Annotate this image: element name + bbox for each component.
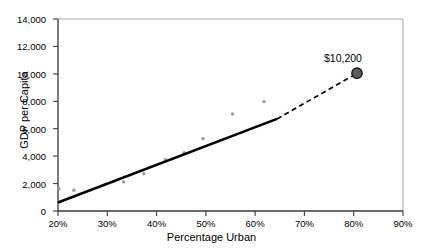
scatter-point (57, 187, 60, 190)
x-tick-label: 40% (137, 218, 177, 229)
y-axis-ticks (53, 19, 58, 211)
y-tick-label: 14,000 (2, 14, 46, 25)
x-tick-label: 60% (235, 218, 275, 229)
x-tick-label: 20% (38, 218, 78, 229)
trend-line-dashed (277, 74, 357, 119)
scatter-point (122, 180, 125, 183)
scatter-points (57, 100, 265, 192)
y-axis-title: GDP per Capita (18, 40, 30, 180)
x-tick-label: 90% (383, 218, 423, 229)
scatter-point (262, 100, 265, 103)
x-tick-label: 70% (284, 218, 324, 229)
x-tick-label: 50% (186, 218, 226, 229)
scatter-point (231, 112, 234, 115)
trend-line-solid (58, 119, 277, 203)
x-axis-ticks (58, 211, 403, 216)
x-tick-label: 30% (87, 218, 127, 229)
projected-value-label: $10,200 (324, 52, 362, 64)
y-tick-label: 2,000 (2, 179, 46, 190)
y-tick-label: 0 (2, 206, 46, 217)
scatter-point (201, 137, 204, 140)
scatter-point (72, 189, 75, 192)
x-axis-title: Percentage Urban (0, 231, 423, 243)
plot-canvas (0, 0, 423, 252)
x-tick-label: 80% (334, 218, 374, 229)
scatter-point (142, 172, 145, 175)
projected-value-marker[interactable] (352, 68, 362, 78)
gdp-vs-urbanization-scatter-chart: 0 2,000 4,000 6,000 8,000 10,000 12,000 … (0, 0, 423, 252)
